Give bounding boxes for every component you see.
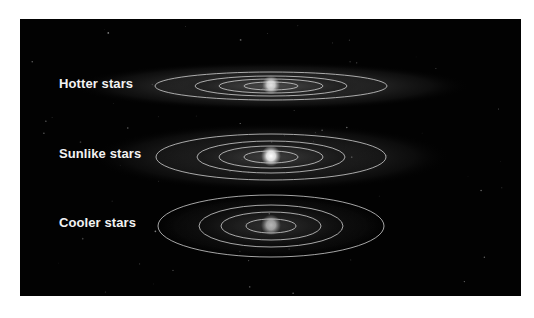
star-icon	[261, 146, 281, 167]
star-icon	[261, 215, 281, 236]
system-sunlike	[91, 123, 451, 191]
diagram-panel: Hotter stars Sunlike stars Cooler stars	[20, 19, 521, 296]
label-hotter-stars: Hotter stars	[59, 76, 133, 91]
label-sunlike-stars: Sunlike stars	[59, 146, 141, 161]
label-cooler-stars: Cooler stars	[59, 215, 136, 230]
system-cooler	[151, 194, 391, 258]
star-icon	[262, 76, 280, 95]
